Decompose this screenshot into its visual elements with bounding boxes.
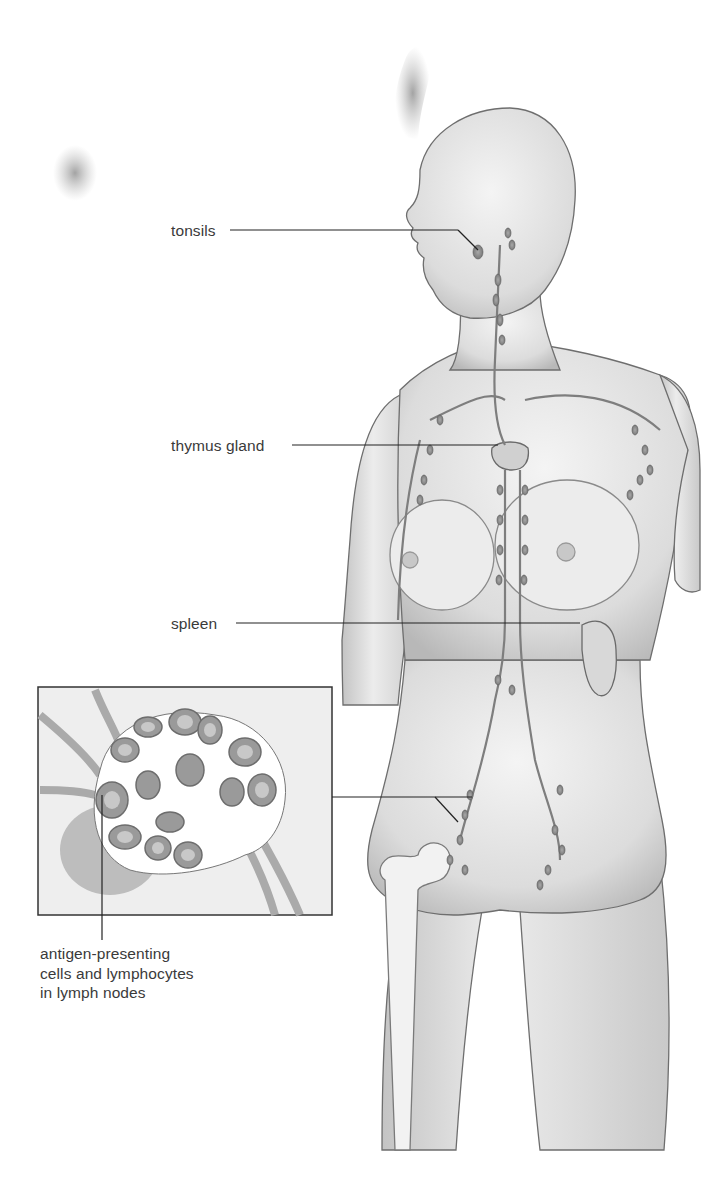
label-tonsils: tonsils	[171, 222, 216, 240]
smudge-marks	[53, 46, 431, 201]
label-lymph-nodes-line-1: antigen-presenting	[40, 944, 240, 964]
lymph-node-inset	[38, 687, 332, 915]
label-lymph-nodes-line-2: cells and lymphocytes	[40, 964, 240, 984]
lymphatic-system-illustration	[0, 0, 702, 1195]
label-thymus-gland: thymus gland	[171, 437, 264, 455]
label-spleen: spleen	[171, 615, 217, 633]
label-lymph-nodes-line-3: in lymph nodes	[40, 983, 240, 1003]
label-lymph-nodes: antigen-presenting cells and lymphocytes…	[40, 944, 240, 1003]
